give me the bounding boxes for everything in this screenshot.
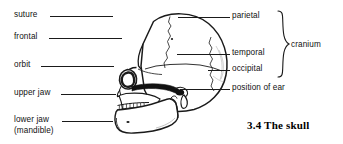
leader-position-of-ear (180, 89, 230, 90)
label-temporal: temporal (232, 48, 265, 58)
skull-illustration (108, 6, 236, 138)
label-cranium: cranium (291, 40, 321, 50)
leader-parietal (178, 17, 230, 18)
leader-occipital (208, 70, 230, 71)
label-position-of-ear: position of ear (232, 83, 285, 93)
leader-temporal (177, 54, 230, 55)
label-parietal: parietal (232, 11, 260, 21)
leader-frontal (49, 38, 122, 39)
label-orbit: orbit (14, 60, 30, 70)
leader-suture (50, 16, 113, 17)
label-lower-jaw: lower jaw (mandible) (14, 115, 54, 136)
label-suture: suture (14, 10, 37, 20)
figure-skull-diagram: suture frontal orbit upper jaw lower jaw… (0, 0, 343, 144)
cranium-bracket (276, 10, 292, 78)
label-frontal: frontal (14, 32, 37, 42)
leader-orbit (41, 66, 114, 67)
label-upper-jaw: upper jaw (14, 88, 50, 98)
leader-upper-jaw (61, 94, 116, 95)
leader-lower-jaw (62, 121, 113, 122)
figure-caption: 3.4 The skull (247, 119, 310, 131)
label-occipital: occipital (232, 64, 262, 74)
